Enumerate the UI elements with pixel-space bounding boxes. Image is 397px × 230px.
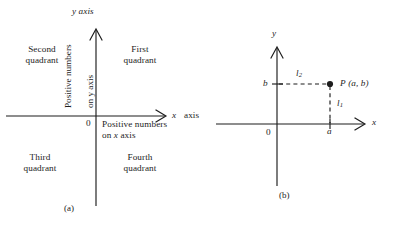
panel-b-y-tick-label: b bbox=[263, 78, 268, 89]
quadrant-first-line2: quadrant bbox=[124, 55, 157, 65]
panel-a-positive-y-line1: Positive numbers bbox=[63, 44, 74, 108]
panel-a-x-axis-label-var: x bbox=[172, 110, 176, 121]
panel-b-segment-l2-label: l2 bbox=[296, 68, 302, 81]
panel-b-segment-l1-subscript: 1 bbox=[340, 101, 343, 108]
panel-a-y-axis-label: y axis bbox=[72, 6, 94, 17]
quadrant-second-line1: Second bbox=[28, 44, 56, 54]
quadrant-third-line2: quadrant bbox=[24, 163, 57, 173]
panel-a-x-axis-label-word: axis bbox=[184, 110, 199, 121]
quadrant-label-first: First quadrant bbox=[124, 44, 157, 66]
panel-b-point-label-coords: (a, b) bbox=[348, 78, 369, 88]
panel-a-positive-x-line1: Positive numbers bbox=[102, 119, 167, 129]
quadrant-label-fourth: Fourth quadrant bbox=[124, 152, 157, 174]
panel-a-positive-x-line2-suffix: axis bbox=[118, 130, 136, 140]
panel-b-caption: (b) bbox=[279, 190, 290, 200]
panel-b-point-p bbox=[327, 81, 333, 87]
quadrant-second-line2: quadrant bbox=[26, 55, 59, 65]
panel-b-segment-l1-label: l1 bbox=[337, 98, 343, 111]
panel-a-positive-x-note: Positive numbers on x axis bbox=[102, 119, 167, 141]
panel-a-positive-y-line2: on y axis bbox=[85, 75, 96, 108]
panel-a-caption: (a) bbox=[64, 203, 74, 213]
panel-b-origin-label: 0 bbox=[266, 127, 271, 138]
quadrant-fourth-line1: Fourth bbox=[127, 152, 152, 162]
panel-b-y-axis-label: y bbox=[272, 28, 276, 39]
panel-a-positive-x-line2-prefix: on bbox=[102, 130, 114, 140]
panel-b-point-label: P (a, b) bbox=[340, 78, 369, 89]
quadrant-label-second: Second quadrant bbox=[26, 44, 59, 66]
quadrant-third-line1: Third bbox=[30, 152, 51, 162]
quadrant-label-third: Third quadrant bbox=[24, 152, 57, 174]
panel-b-x-tick-label: a bbox=[327, 126, 332, 137]
panel-b-segment-l2-subscript: 2 bbox=[299, 71, 302, 78]
quadrant-first-line1: First bbox=[131, 44, 148, 54]
panel-b-point-label-p: P bbox=[340, 78, 346, 88]
quadrant-fourth-line2: quadrant bbox=[124, 163, 157, 173]
panel-b-x-axis-label: x bbox=[372, 117, 376, 128]
figure-page: y axis x axis 0 Second quadrant First qu… bbox=[0, 0, 397, 230]
panel-a-origin-label: 0 bbox=[86, 118, 91, 129]
